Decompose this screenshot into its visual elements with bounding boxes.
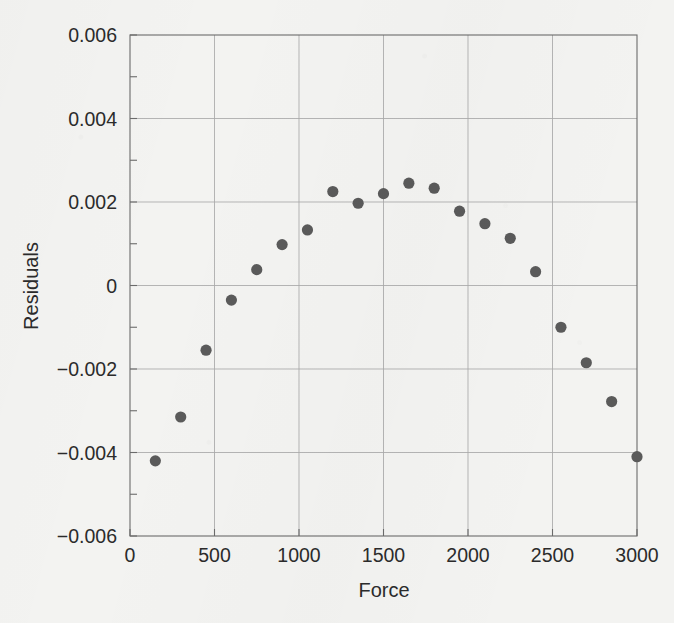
data-point [606, 396, 617, 407]
y-tick-label: 0 [106, 275, 117, 297]
y-tick-label: 0.006 [68, 24, 117, 46]
grid-lines [130, 35, 637, 536]
x-tick-label: 500 [198, 544, 231, 566]
y-tick-label: −0.004 [57, 442, 117, 464]
data-point [251, 264, 262, 275]
data-point [327, 186, 338, 197]
y-tick-label: 0.002 [68, 191, 117, 213]
x-tick-label: 3000 [615, 544, 659, 566]
x-tick-label: 1000 [277, 544, 321, 566]
y-axis-tick-labels: −0.006−0.004−0.00200.0020.0040.006 [57, 24, 117, 547]
data-point [530, 266, 541, 277]
y-axis-title: Residuals [20, 242, 42, 330]
data-point [226, 295, 237, 306]
data-point [403, 178, 414, 189]
x-tick-label: 1500 [362, 544, 406, 566]
x-tick-label: 2000 [446, 544, 490, 566]
x-tick-label: 2500 [531, 544, 575, 566]
data-point [353, 198, 364, 209]
data-point [378, 188, 389, 199]
data-point [555, 322, 566, 333]
residuals-vs-force-scatter-plot: −0.006−0.004−0.00200.0020.0040.006 05001… [0, 0, 674, 623]
data-point [429, 183, 440, 194]
data-point [200, 345, 211, 356]
data-point [277, 239, 288, 250]
data-point [479, 218, 490, 229]
data-point [454, 206, 465, 217]
y-tick-label: −0.006 [57, 525, 117, 547]
x-axis-tick-labels: 050010001500200025003000 [125, 544, 659, 566]
chart-canvas: −0.006−0.004−0.00200.0020.0040.006 05001… [0, 0, 674, 623]
data-point [150, 455, 161, 466]
data-point [505, 233, 516, 244]
y-tick-label: −0.002 [57, 358, 117, 380]
data-points [150, 178, 643, 467]
x-axis-title: Force [358, 579, 409, 601]
y-tick-label: 0.004 [68, 108, 117, 130]
data-point [175, 411, 186, 422]
data-point [302, 224, 313, 235]
data-point [581, 357, 592, 368]
data-point [631, 451, 642, 462]
x-tick-label: 0 [125, 544, 136, 566]
